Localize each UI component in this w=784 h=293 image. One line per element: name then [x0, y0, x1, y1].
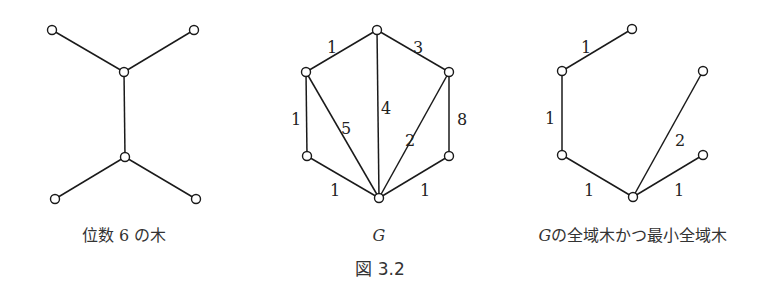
edge-lower-right-bottom: [633, 155, 703, 197]
node-top: [628, 25, 637, 34]
node-upper-right: [445, 68, 454, 77]
figure-3-2: 131542811 11121 位数 6 の木 G Gの全域木かつ最小全域木 図…: [0, 0, 784, 293]
node-lower-right: [699, 151, 708, 160]
edge-upper-right-bottom: [633, 71, 703, 197]
edge-weight-label: 1: [327, 38, 337, 57]
edge-lower-right-bottom: [379, 156, 449, 198]
edge-lower-left-bottom: [562, 155, 633, 197]
node-top: [373, 26, 382, 35]
edge-d-f: [125, 157, 196, 199]
node-upper-left: [558, 67, 567, 76]
caption-graph-G: G: [373, 226, 386, 245]
edge-weight-label: 2: [675, 131, 685, 150]
panel-mst-of-G: 11121: [545, 25, 708, 202]
node-upper-right: [699, 67, 708, 76]
edge-weight-label: 5: [341, 119, 351, 138]
caption-mst-of-G: Gの全域木かつ最小全域木: [539, 226, 728, 245]
edge-b-c: [124, 30, 194, 72]
edge-weight-label: 1: [420, 181, 430, 200]
edge-weight-label: 3: [413, 38, 423, 57]
caption-mst-rest: の全域木かつ最小全域木: [551, 226, 727, 245]
node-e: [51, 195, 60, 204]
node-lower-left: [558, 151, 567, 160]
figure-label: 図 3.2: [355, 259, 404, 279]
node-f: [192, 195, 201, 204]
panel-graph-G: 131542811: [291, 26, 467, 203]
edge-upper-left-lower-left: [306, 72, 307, 156]
edge-top-bottom: [377, 30, 379, 198]
node-c: [120, 68, 129, 77]
node-lower-right: [445, 152, 454, 161]
edge-weight-label: 1: [584, 181, 594, 200]
panel-tree-degree-6: [48, 26, 201, 204]
node-upper-left: [302, 68, 311, 77]
node-bottom: [375, 194, 384, 203]
edge-weight-label: 1: [330, 181, 340, 200]
caption-mst-italic-g: G: [539, 226, 552, 245]
node-d: [121, 153, 130, 162]
edge-upper-left-top: [306, 30, 377, 72]
node-a: [48, 26, 57, 35]
caption-tree-degree-6: 位数 6 の木: [82, 226, 166, 245]
edge-weight-label: 1: [674, 181, 684, 200]
node-b: [190, 26, 199, 35]
edge-lower-left-bottom: [307, 156, 379, 198]
edge-a-c: [52, 30, 124, 72]
node-lower-left: [303, 152, 312, 161]
edge-weight-label: 8: [457, 110, 467, 129]
edge-c-d: [124, 72, 125, 157]
edge-weight-label: 1: [545, 109, 555, 128]
edge-d-e: [55, 157, 125, 199]
edge-weight-label: 4: [381, 99, 391, 118]
edge-weight-label: 1: [291, 110, 301, 129]
edge-weight-label: 2: [405, 131, 415, 150]
node-bottom: [629, 193, 638, 202]
edge-upper-left-top: [562, 29, 632, 71]
edge-weight-label: 1: [581, 38, 591, 57]
